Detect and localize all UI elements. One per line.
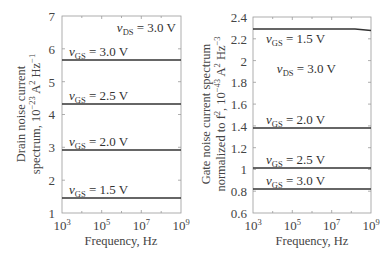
svg-text:2.2: 2.2: [231, 32, 247, 47]
svg-text:2.4: 2.4: [231, 10, 248, 25]
right-ytick-labels: 2.4 2.2 2 1.8 1.6 1.4 1.2 1 0.8 0.6: [231, 10, 248, 221]
left-vds-annotation: vDS = 3.0 V: [117, 20, 177, 37]
right-ylabel-line1: Gate noise current spectrum: [199, 43, 213, 184]
right-xtick-labels: 103 105 107 109: [244, 217, 379, 233]
right-label-vgs-2.0: vGS = 2.0 V: [266, 112, 326, 129]
svg-text:4: 4: [49, 107, 56, 122]
svg-text:5: 5: [49, 75, 56, 90]
svg-text:3: 3: [49, 140, 56, 155]
svg-text:2: 2: [49, 173, 56, 188]
svg-text:0.8: 0.8: [231, 184, 247, 199]
svg-text:109: 109: [172, 217, 189, 233]
svg-text:1: 1: [241, 162, 248, 177]
right-xlabel: Frequency, Hz: [276, 234, 349, 248]
right-vds-annotation: vDS = 3.0 V: [277, 61, 337, 78]
svg-text:1.6: 1.6: [231, 97, 248, 112]
svg-text:105: 105: [284, 217, 301, 233]
left-ylabel-line2: spectrum, 10−23 A2 Hz−1: [27, 54, 43, 174]
left-label-vgs-2.0: vGS = 2.0 V: [69, 134, 129, 151]
left-xlabel: Frequency, Hz: [85, 234, 158, 248]
svg-text:6: 6: [49, 42, 56, 57]
right-chart: Gate noise current spectrum normalized t…: [199, 10, 380, 248]
left-chart: Drain noise current spectrum, 10−23 A2 H…: [14, 9, 190, 248]
left-ylabel-line1: Drain noise current: [14, 65, 28, 162]
figure: Drain noise current spectrum, 10−23 A2 H…: [0, 0, 389, 256]
svg-text:107: 107: [133, 217, 150, 233]
left-series-lines: [62, 60, 181, 198]
svg-text:1.8: 1.8: [231, 75, 247, 90]
svg-text:107: 107: [323, 217, 340, 233]
svg-text:105: 105: [93, 217, 110, 233]
svg-text:1.4: 1.4: [231, 119, 248, 134]
svg-text:7: 7: [49, 9, 56, 24]
right-label-vgs-2.5: vGS = 2.5 V: [266, 152, 326, 169]
right-label-vgs-1.5: vGS = 1.5 V: [266, 31, 326, 48]
left-xtick-labels: 103 105 107 109: [53, 217, 189, 233]
svg-text:109: 109: [362, 217, 379, 233]
svg-text:103: 103: [244, 217, 261, 233]
left-ytick-labels: 7 6 5 4 3 2 1: [49, 9, 56, 221]
left-label-vgs-1.5: vGS = 1.5 V: [69, 182, 129, 199]
left-label-vgs-2.5: vGS = 2.5 V: [69, 88, 129, 105]
svg-text:2: 2: [241, 54, 248, 69]
right-label-vgs-3.0: vGS = 3.0 V: [266, 173, 326, 190]
svg-text:103: 103: [53, 217, 70, 233]
left-label-vgs-3.0: vGS = 3.0 V: [69, 44, 129, 61]
right-ylabel-line2: normalized to f2, 10−43 A2 Hz−3: [212, 36, 228, 191]
svg-text:1.2: 1.2: [231, 141, 247, 156]
